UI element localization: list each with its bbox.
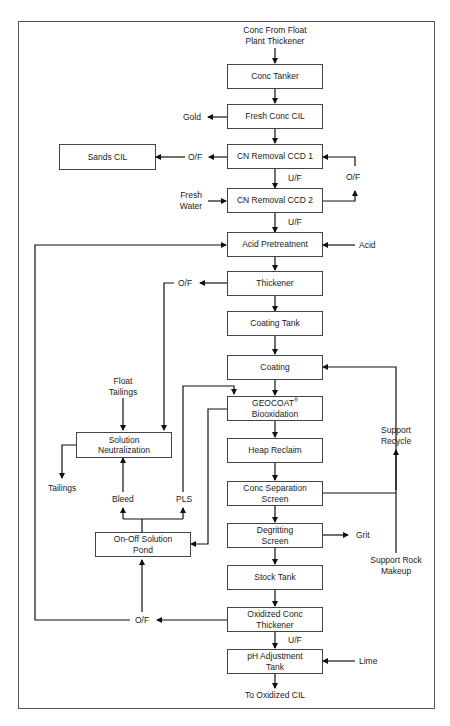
thickener-label: Thickener [256, 278, 293, 289]
onoff-pond-label-2: Pond [133, 545, 153, 556]
fresh-conc-cil-label: Fresh Conc CIL [245, 111, 305, 122]
support-recycle-line-1: Support [376, 425, 416, 436]
registered-mark: ® [294, 397, 298, 403]
support-rock-line-1: Support Rock [366, 555, 426, 566]
uf-1-label: U/F [288, 173, 302, 184]
heap-reclaim-label: Heap Reclaim [248, 445, 301, 456]
coating-tank-label: Coating Tank [250, 318, 299, 329]
fresh-water-line-2: Water [176, 201, 206, 212]
biooxidation-label: Biooxidation [252, 409, 298, 420]
cn-removal-ccd1-label: CN Removal CCD 1 [237, 151, 313, 162]
geocoat-text: GEOCOAT [252, 398, 294, 408]
conc-from-float-label: Conc From Float Plant Thickener [235, 25, 315, 46]
ph-label-1: pH Adjustment [247, 651, 302, 662]
geocoat-biooxidation-box: GEOCOAT® Biooxidation [227, 396, 323, 421]
cn-removal-ccd2-label: CN Removal CCD 2 [237, 195, 313, 206]
of-oxidized-label: O/F [135, 615, 149, 626]
conc-from-line-2: Plant Thickener [235, 36, 315, 47]
uf-2-label: U/F [288, 217, 302, 228]
coating-box: Coating [227, 355, 323, 380]
cn-removal-ccd2-box: CN Removal CCD 2 [227, 188, 323, 213]
oxidized-label-1: Oxidized Conc [247, 609, 302, 620]
float-tailings-label: Float Tailings [103, 376, 143, 397]
of-sands-label: O/F [188, 152, 202, 163]
on-off-solution-pond-box: On-Off Solution Pond [95, 532, 191, 557]
acid-pretreatment-box: Acid Pretreatnent [227, 232, 323, 257]
stock-tank-box: Stock Tank [227, 565, 323, 590]
pls-label: PLS [176, 494, 192, 505]
fresh-conc-cil-box: Fresh Conc CIL [227, 104, 323, 129]
conc-separation-screen-box: Conc Separation Screen [227, 481, 323, 506]
degritting-label-2: Screen [262, 536, 289, 547]
coating-tank-box: Coating Tank [227, 311, 323, 336]
solution-neut-label-1: Solution [109, 435, 140, 446]
support-rock-line-2: Makeup [366, 566, 426, 577]
support-recycle-line-2: Recycle [376, 436, 416, 447]
conc-tanker-label: Conc Tanker [251, 71, 299, 82]
ph-label-2: Tank [266, 662, 284, 673]
conc-separation-label-1: Conc Separation [243, 483, 306, 494]
support-rock-makeup-label: Support Rock Makeup [366, 555, 426, 576]
float-tailings-line-2: Tailings [103, 387, 143, 398]
acid-label: Acid [359, 240, 376, 251]
of-thickener-label: O/F [178, 278, 192, 289]
flow-connectors [0, 0, 450, 726]
grit-label: Grit [356, 530, 370, 541]
geocoat-label: GEOCOAT® [252, 398, 298, 409]
cn-removal-ccd1-box: CN Removal CCD 1 [227, 144, 323, 169]
onoff-pond-label-1: On-Off Solution [114, 534, 172, 545]
heap-reclaim-box: Heap Reclaim [227, 438, 323, 463]
degritting-screen-box: Degritting Screen [227, 523, 323, 548]
sands-cil-box: Sands CIL [59, 144, 156, 170]
thickener-box: Thickener [227, 271, 323, 296]
fresh-water-label: Fresh Water [176, 190, 206, 211]
conc-separation-label-2: Screen [262, 494, 289, 505]
sands-cil-label: Sands CIL [88, 152, 128, 163]
solution-neutralization-box: Solution Neutralization [76, 432, 172, 458]
ph-adjustment-tank-box: pH Adjustment Tank [227, 649, 323, 674]
to-oxidized-cil-label: To Oxidized CIL [240, 690, 310, 701]
bleed-label: Bleed [112, 494, 134, 505]
acid-pretreatment-label: Acid Pretreatnent [242, 239, 308, 250]
coating-label: Coating [260, 362, 289, 373]
uf-3-label: U/F [288, 635, 302, 646]
conc-tanker-box: Conc Tanker [227, 64, 323, 89]
oxidized-label-2: Thickener [256, 620, 293, 631]
support-recycle-label: Support Recycle [376, 425, 416, 446]
solution-neut-label-2: Neutralization [98, 445, 150, 456]
gold-label: Gold [183, 112, 201, 123]
float-tailings-line-1: Float [103, 376, 143, 387]
lime-label: Lime [359, 656, 377, 667]
oxidized-conc-thickener-box: Oxidized Conc Thickener [227, 607, 323, 632]
tailings-label: Tailings [48, 483, 76, 494]
degritting-label-1: Degritting [257, 525, 293, 536]
stock-tank-label: Stock Tank [254, 572, 295, 583]
conc-from-line-1: Conc From Float [235, 25, 315, 36]
fresh-water-line-1: Fresh [176, 190, 206, 201]
of-loop-label: O/F [346, 172, 360, 183]
